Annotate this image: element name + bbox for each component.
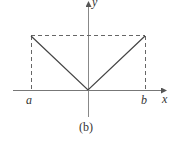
tick-label-b: b — [141, 93, 147, 107]
diagram-canvas: y x a b (b) — [0, 0, 177, 145]
x-axis-label: x — [161, 92, 168, 106]
tick-label-a: a — [26, 93, 32, 107]
y-axis-label: y — [91, 0, 98, 9]
figure-caption: (b) — [79, 120, 93, 134]
